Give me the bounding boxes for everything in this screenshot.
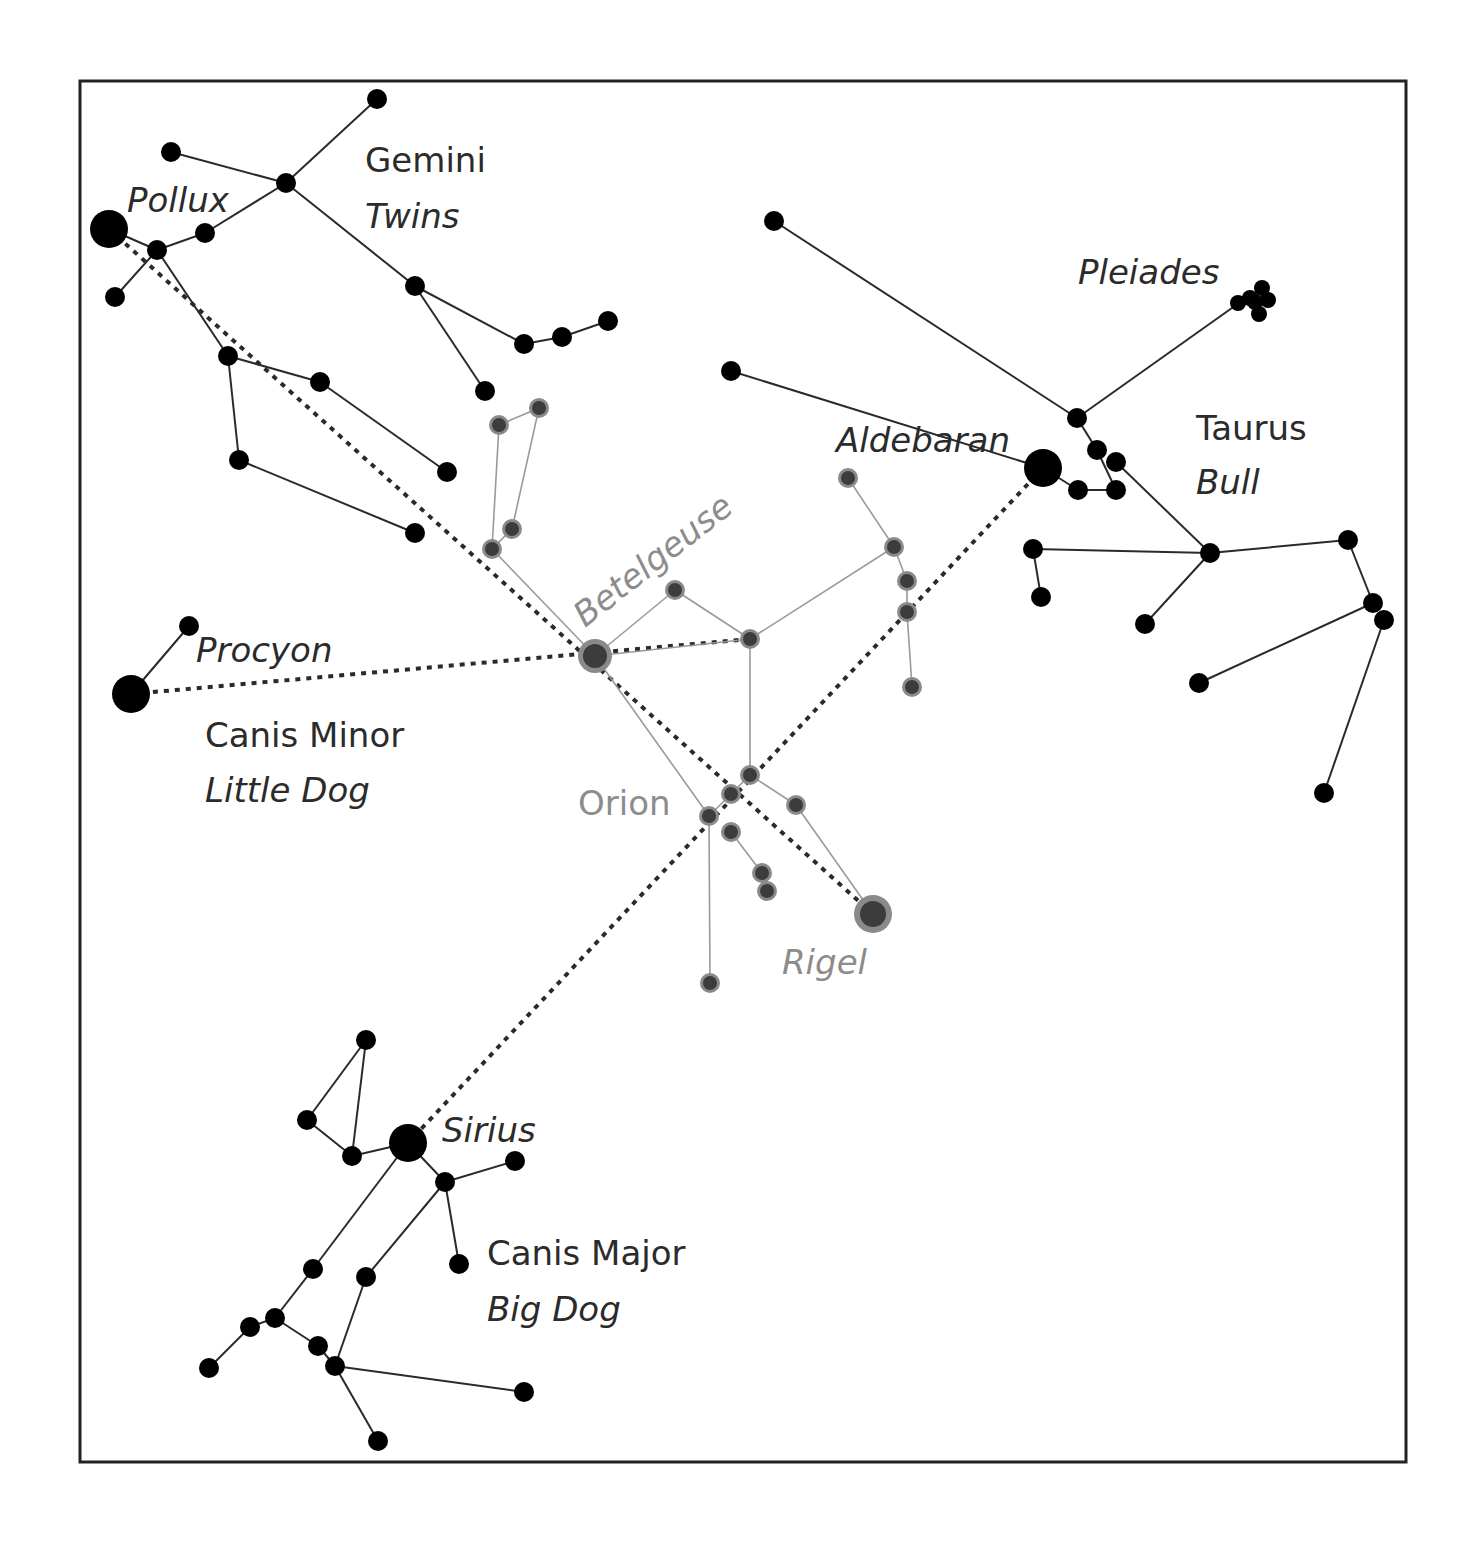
star-o6 <box>743 632 757 646</box>
star-t14 <box>1374 610 1394 630</box>
label-taurus: Taurus <box>1195 408 1307 448</box>
label-little-dog: Little Dog <box>205 770 370 810</box>
constellation-line <box>1077 303 1239 418</box>
stars-canis-major <box>199 1030 534 1451</box>
star-cma5 <box>435 1172 455 1192</box>
constellation-line <box>445 1161 515 1182</box>
constellation-line <box>750 547 894 639</box>
star-t1 <box>764 211 784 231</box>
labels: Gemini Twins Pollux Pleiades Aldebaran T… <box>127 140 1307 1329</box>
stars-pleiades <box>1230 280 1276 322</box>
star-g11 <box>475 381 495 401</box>
constellation-line <box>1324 620 1384 793</box>
constellation-line <box>228 356 239 460</box>
star-t7 <box>1106 480 1126 500</box>
constellation-line <box>286 99 377 183</box>
constellation-line <box>675 590 750 639</box>
star-cma10 <box>240 1317 260 1337</box>
constellation-line <box>445 1182 459 1264</box>
star-o7 <box>841 471 855 485</box>
star-cma11 <box>308 1336 328 1356</box>
star-cma6 <box>449 1254 469 1274</box>
star-g6 <box>105 287 125 307</box>
star-g7 <box>405 276 425 296</box>
pointer-line-pollux-to-rigel <box>109 229 873 914</box>
label-bull: Bull <box>1196 462 1260 502</box>
star-o8 <box>887 540 901 554</box>
constellation-line <box>774 221 1077 418</box>
star-cma14 <box>514 1382 534 1402</box>
constellation-line <box>796 805 873 914</box>
star-g9 <box>552 327 572 347</box>
star-o4 <box>485 542 499 556</box>
star-map: Gemini Twins Pollux Pleiades Aldebaran T… <box>0 0 1477 1543</box>
label-betelgeuse: Betelgeuse <box>565 485 740 634</box>
label-gemini: Gemini <box>365 140 486 180</box>
constellation-line <box>492 425 499 549</box>
star-o12 <box>743 768 757 782</box>
star-t5 <box>1106 452 1126 472</box>
label-sirius: Sirius <box>442 1110 536 1150</box>
constellation-line <box>415 286 524 344</box>
constellation-line <box>366 1182 445 1277</box>
label-pollux: Pollux <box>127 180 230 220</box>
star-cma15 <box>368 1431 388 1451</box>
star-t15 <box>1189 673 1209 693</box>
star-cma12 <box>325 1356 345 1376</box>
star-g13 <box>310 372 330 392</box>
constellation-line <box>1199 603 1373 683</box>
stars-gemini <box>90 89 618 543</box>
constellation-line <box>1033 549 1210 553</box>
star-t3 <box>1067 408 1087 428</box>
constellation-line <box>848 478 894 547</box>
star-g14 <box>437 462 457 482</box>
constellation-line <box>595 639 750 656</box>
label-procyon: Procyon <box>196 630 332 670</box>
constellation-line <box>709 816 710 983</box>
constellation-line <box>171 152 286 183</box>
label-twins: Twins <box>365 196 460 236</box>
star-o9 <box>900 574 914 588</box>
constellation-gemini <box>109 99 608 533</box>
star-g12 <box>218 346 238 366</box>
star-o11 <box>905 680 919 694</box>
label-orion: Orion <box>578 783 671 823</box>
star-t12 <box>1338 530 1358 550</box>
star-g15 <box>229 450 249 470</box>
star-o1 <box>492 418 506 432</box>
star-procyon <box>112 675 150 713</box>
star-t6 <box>1068 480 1088 500</box>
constellation-line <box>415 286 485 391</box>
star-g1 <box>367 89 387 109</box>
constellation-line <box>239 460 415 533</box>
star-cma2 <box>297 1110 317 1130</box>
label-pleiades: Pleiades <box>1078 252 1219 292</box>
constellation-line <box>335 1366 378 1441</box>
constellation-line <box>157 250 228 356</box>
star-g8 <box>514 334 534 354</box>
label-rigel: Rigel <box>782 942 868 982</box>
star-t8 <box>1200 543 1220 563</box>
star-o14 <box>702 809 716 823</box>
star-rigel <box>860 901 886 927</box>
star-o15 <box>789 798 803 812</box>
star-pollux <box>90 210 128 248</box>
star-o5 <box>668 583 682 597</box>
constellation-line <box>512 408 539 529</box>
star-o10 <box>900 605 914 619</box>
star-g16 <box>405 523 425 543</box>
star-t9 <box>1023 539 1043 559</box>
star-cma8 <box>356 1267 376 1287</box>
star-cma13 <box>199 1358 219 1378</box>
star-t4 <box>1087 440 1107 460</box>
star-g5 <box>147 240 167 260</box>
constellation-orion <box>492 408 912 983</box>
star-o3 <box>505 522 519 536</box>
label-canis-minor: Canis Minor <box>205 715 404 755</box>
constellation-line <box>907 612 912 687</box>
star-aldebaran <box>1024 449 1062 487</box>
star-g10 <box>598 311 618 331</box>
star-o16 <box>724 825 738 839</box>
star-g2 <box>161 142 181 162</box>
star-cma7 <box>303 1259 323 1279</box>
